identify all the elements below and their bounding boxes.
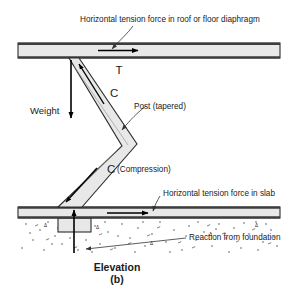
compression-arrow-upper: [79, 64, 104, 104]
figure-caption-sub: (b): [110, 273, 123, 285]
label-compression-lower-text: (Compression): [117, 165, 171, 174]
ground-slab: [18, 207, 280, 218]
diagram-canvas: Δ Δ Δ Δ Δ: [0, 0, 302, 292]
label-tension-top: T: [115, 64, 122, 76]
label-compression-lower-symbol: C: [107, 163, 115, 175]
label-post-callout: Post (tapered): [134, 102, 186, 111]
svg-text:Δ: Δ: [96, 225, 99, 230]
label-top-callout: Horizontal tension force in roof or floo…: [80, 15, 260, 24]
label-reaction-callout: Reaction from foundation: [189, 233, 281, 242]
tapered-post-member: [58, 58, 137, 207]
svg-text:Δ: Δ: [255, 223, 258, 228]
roof-or-floor-diaphragm-beam: [18, 43, 280, 58]
figure-caption-title: Elevation: [94, 261, 141, 273]
svg-text:Δ: Δ: [44, 223, 47, 228]
structural-elevation-diagram: Δ Δ Δ Δ Δ: [0, 0, 302, 292]
label-compression-upper: C: [110, 87, 118, 99]
label-slab-callout: Horizontal tension force in slab: [163, 189, 275, 198]
label-weight: Weight: [30, 105, 60, 116]
